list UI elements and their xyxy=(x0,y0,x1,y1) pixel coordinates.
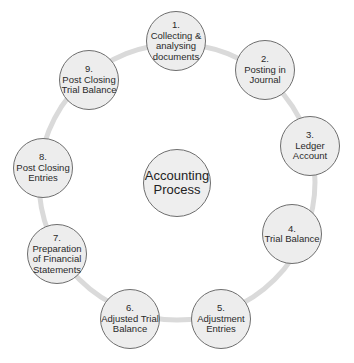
step-label-line: Entries xyxy=(28,173,58,184)
step-9-post-closing-trial-balance: 9. Post Closing Trial Balance xyxy=(59,50,119,110)
step-label-line: Entries xyxy=(206,324,236,335)
accounting-process-diagram: Accounting Process 1. Collecting & analy… xyxy=(0,0,354,363)
step-5-adjustment-entries: 5. Adjustment Entries xyxy=(191,289,251,349)
step-label-line: documents xyxy=(153,52,199,63)
step-label-line: of Financial xyxy=(33,254,82,265)
step-8-post-closing-entries: 8. Post Closing Entries xyxy=(13,138,73,198)
step-7-preparation-of-financial-statements: 7. Preparation of Financial Statements xyxy=(27,224,87,284)
step-2-posting-in-journal: 2. Posting in Journal xyxy=(235,40,295,100)
step-label-line: Trial Balance xyxy=(61,85,116,96)
step-number: 1. xyxy=(172,20,180,31)
step-label-line: Statements xyxy=(33,265,81,276)
step-label-line: Account xyxy=(293,151,327,162)
step-6-adjusted-trial-balance: 6. Adjusted Trial Balance xyxy=(100,289,160,349)
step-label-line: Trial Balance xyxy=(264,234,319,245)
center-line: Process xyxy=(154,183,201,198)
step-label-line: Journal xyxy=(249,75,280,86)
step-number: 7. xyxy=(53,233,61,244)
center-node-accounting-process: Accounting Process xyxy=(143,149,211,217)
step-3-ledger-account: 3. Ledger Account xyxy=(280,116,340,176)
step-4-trial-balance: 4. Trial Balance xyxy=(262,204,322,264)
step-1-collecting-documents: 1. Collecting & analysing documents xyxy=(146,11,206,71)
center-line: Accounting xyxy=(145,169,209,184)
step-label-line: analysing xyxy=(156,41,196,52)
step-label-line: Balance xyxy=(113,324,147,335)
